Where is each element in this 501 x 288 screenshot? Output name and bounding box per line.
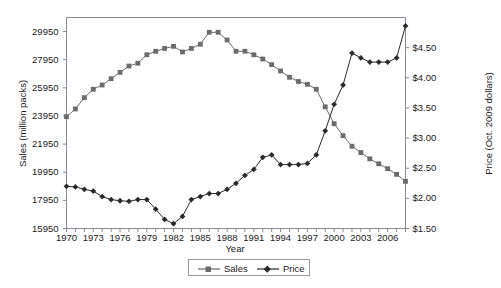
y-axis-right-tick-label: $2.00 xyxy=(413,192,457,203)
series-marker-sales xyxy=(180,50,185,55)
y-axis-right-tick-label: $3.50 xyxy=(413,102,457,113)
series-marker-sales xyxy=(394,172,399,177)
series-marker-sales xyxy=(287,75,292,80)
series-marker-sales xyxy=(91,87,96,92)
series-marker-sales xyxy=(64,114,69,119)
legend-label-price: Price xyxy=(283,263,305,274)
legend-item-sales[interactable]: Sales xyxy=(197,262,248,275)
series-marker-sales xyxy=(118,70,123,75)
series-marker-sales xyxy=(234,49,239,54)
series-marker-sales xyxy=(403,179,408,184)
chart-legend: Sales Price xyxy=(188,259,310,276)
series-marker-sales xyxy=(296,79,301,84)
series-marker-price xyxy=(358,55,364,61)
series-marker-price xyxy=(108,197,114,203)
legend-label-sales: Sales xyxy=(224,263,248,274)
legend-item-price[interactable]: Price xyxy=(256,262,305,275)
series-marker-price xyxy=(331,101,337,107)
series-marker-sales xyxy=(73,107,78,112)
series-marker-sales xyxy=(269,62,274,67)
y-axis-right-tick-label: $1.50 xyxy=(413,223,457,234)
series-marker-sales xyxy=(109,76,114,81)
y-axis-left-tick-label: 17950 xyxy=(15,194,59,205)
series-marker-price xyxy=(287,162,293,168)
legend-marker-sales-icon xyxy=(197,263,221,275)
series-marker-price xyxy=(376,59,382,65)
series-marker-price xyxy=(64,183,70,189)
series-marker-sales xyxy=(376,161,381,166)
series-marker-sales xyxy=(127,64,132,69)
y-axis-left-tick-label: 23950 xyxy=(15,110,59,121)
series-marker-price xyxy=(90,188,96,194)
series-line-price xyxy=(67,26,406,224)
series-marker-sales xyxy=(332,121,337,126)
series-marker-sales xyxy=(278,69,283,74)
series-marker-sales xyxy=(251,52,256,57)
series-marker-price xyxy=(296,162,302,168)
y-axis-right-tick-label: $2.50 xyxy=(413,162,457,173)
series-marker-sales xyxy=(100,83,105,88)
series-marker-sales xyxy=(162,46,167,51)
series-marker-sales xyxy=(314,87,319,92)
series-marker-price xyxy=(81,186,87,192)
series-marker-price xyxy=(73,184,79,190)
series-marker-sales xyxy=(82,95,87,100)
series-marker-price xyxy=(394,55,400,61)
series-marker-sales xyxy=(367,156,372,161)
series-marker-price xyxy=(206,191,212,197)
series-marker-price xyxy=(403,23,409,29)
y-axis-right-tick-label: $4.00 xyxy=(413,72,457,83)
series-marker-price xyxy=(224,186,230,192)
y-axis-left-tick-label: 15950 xyxy=(15,223,59,234)
series-marker-price xyxy=(322,128,328,134)
x-axis-title: Year xyxy=(0,243,470,254)
series-marker-sales xyxy=(243,49,248,54)
series-marker-price xyxy=(349,50,355,56)
y-axis-left-tick-label: 27950 xyxy=(15,54,59,65)
series-marker-sales xyxy=(144,52,149,57)
series-marker-price xyxy=(188,197,194,203)
y-axis-left-tick-label: 25950 xyxy=(15,82,59,93)
series-marker-sales xyxy=(341,133,346,138)
series-marker-sales xyxy=(260,57,265,62)
y-axis-left-tick-label: 21950 xyxy=(15,138,59,149)
series-marker-price xyxy=(126,198,132,204)
series-marker-sales xyxy=(189,46,194,51)
x-tick-label: 2006 xyxy=(368,232,408,243)
series-marker-sales xyxy=(323,104,328,109)
series-marker-sales xyxy=(198,42,203,47)
series-marker-sales xyxy=(385,166,390,171)
chart-container: Sales (million packs) Price (Oct. 2009 d… xyxy=(0,0,501,288)
series-marker-sales xyxy=(305,82,310,87)
series-marker-price xyxy=(367,59,373,65)
series-marker-sales xyxy=(171,44,176,49)
series-marker-sales xyxy=(350,144,355,149)
series-marker-price xyxy=(215,191,221,197)
y-axis-right-tick-label: $4.50 xyxy=(413,42,457,53)
series-marker-sales xyxy=(358,150,363,155)
series-marker-price xyxy=(385,59,391,65)
series-marker-price xyxy=(197,194,203,200)
series-marker-price xyxy=(117,198,123,204)
series-marker-price xyxy=(135,197,141,203)
y-axis-left-title: Sales (million packs) xyxy=(17,44,28,204)
legend-marker-price-icon xyxy=(256,263,280,275)
series-marker-sales xyxy=(135,61,140,66)
series-marker-price xyxy=(340,82,346,88)
series-marker-sales xyxy=(153,49,158,54)
series-marker-sales xyxy=(225,38,230,43)
series-marker-sales xyxy=(216,30,221,35)
series-marker-price xyxy=(99,194,105,200)
y-axis-left-tick-label: 19950 xyxy=(15,166,59,177)
y-axis-right-tick-label: $3.00 xyxy=(413,132,457,143)
y-axis-left-tick-label: 29950 xyxy=(15,26,59,37)
y-axis-right-title: Price (Oct. 2009 dollars) xyxy=(483,39,494,209)
series-marker-sales xyxy=(207,30,212,35)
